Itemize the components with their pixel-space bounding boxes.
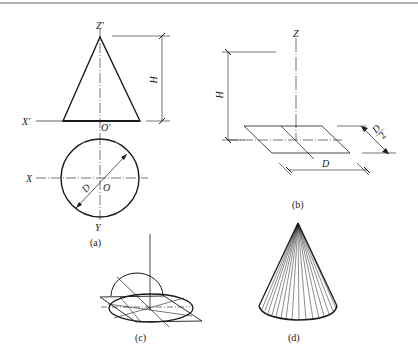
- label-z-prime: Z': [96, 20, 105, 31]
- label-h-front: H: [148, 76, 159, 85]
- base-parallelogram: [244, 126, 350, 153]
- cone-base-curve: [259, 306, 337, 320]
- caption-a: (a): [90, 237, 101, 249]
- cone-pictorial: [259, 223, 337, 320]
- label-o-prime: O': [101, 122, 111, 133]
- cone-projection-figure: Z' X' O' H X O D Y (a) Z H: [0, 0, 418, 364]
- svg-text:2: 2: [377, 129, 388, 140]
- label-d-half: D 2: [368, 121, 390, 143]
- label-o: O: [103, 182, 110, 193]
- cone-front-triangle: [63, 37, 140, 121]
- label-x: X: [25, 173, 33, 184]
- caption-c: (c): [135, 332, 146, 344]
- caption-d: (d): [288, 332, 300, 344]
- label-d-circle: D: [79, 181, 93, 195]
- caption-b: (b): [292, 199, 304, 211]
- label-y: Y: [95, 222, 102, 233]
- label-d-b: D: [321, 158, 330, 169]
- label-z: Z: [293, 28, 299, 39]
- label-h-b: H: [214, 91, 225, 100]
- panel-b: Z H D D 2 (b): [214, 28, 396, 211]
- diameter-dimension-line: [76, 154, 127, 208]
- base-ellipse: [109, 294, 193, 322]
- panel-c: (c): [100, 234, 204, 344]
- panel-a: Z' X' O' H X O D Y (a): [21, 20, 170, 249]
- top-view: X O D Y: [25, 135, 148, 233]
- panel-d: (d): [259, 223, 337, 344]
- label-x-prime: X': [21, 116, 31, 127]
- front-view: Z' X' O' H: [21, 20, 170, 135]
